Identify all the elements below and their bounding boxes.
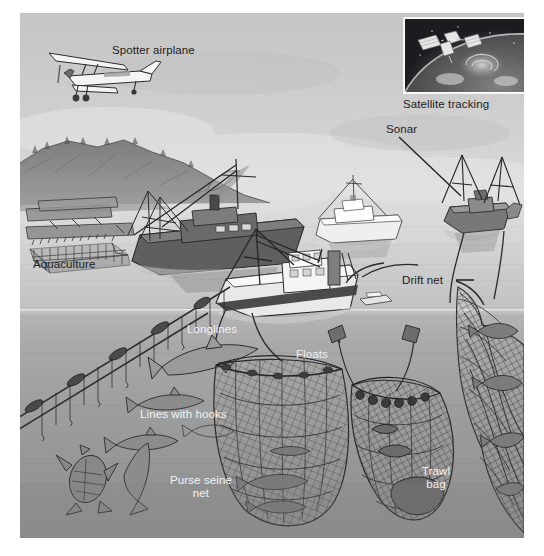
label-trawl-bag: Trawl bag <box>412 465 460 491</box>
label-lines-with-hooks: Lines with hooks <box>140 408 227 421</box>
label-satellite-tracking: Satellite tracking <box>403 98 489 111</box>
label-floats: Floats <box>296 348 328 361</box>
label-aquaculture: Aquaculture <box>33 258 95 271</box>
illustration-canvas <box>20 13 524 538</box>
label-purse-seine-net: Purse seine net <box>165 474 237 500</box>
satellite-inset-photo <box>404 18 524 93</box>
label-spotter-airplane: Spotter airplane <box>112 44 195 57</box>
label-drift-net: Drift net <box>402 274 443 287</box>
label-longlines: Longlines <box>187 323 237 336</box>
fishing-methods-illustration: Spotter airplane Satellite tracking Sona… <box>20 13 524 538</box>
label-sonar: Sonar <box>386 123 417 136</box>
